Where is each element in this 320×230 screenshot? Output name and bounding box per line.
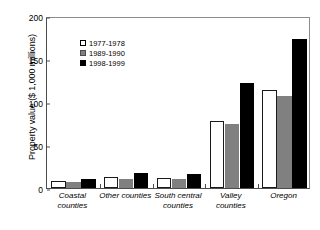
bar (240, 83, 255, 188)
y-tick-label: 100 (7, 99, 47, 109)
legend-swatch-icon (80, 40, 86, 46)
bar (81, 179, 96, 188)
legend-label: 1977-1978 (89, 39, 125, 48)
bar-group (262, 18, 307, 188)
legend-label: 1998-1999 (89, 59, 125, 68)
bar (104, 177, 119, 188)
x-category-label-line: Other counties (99, 191, 152, 201)
legend-label: 1989-1990 (89, 49, 125, 58)
x-category-label-line: Oregon (257, 191, 310, 201)
x-tick-mark (100, 184, 101, 188)
x-category-label: South centralcounties (152, 191, 205, 210)
x-category-label-line: South central (152, 191, 205, 201)
bar (51, 181, 66, 188)
x-tick-mark (153, 184, 154, 188)
legend-item: 1977-1978 (80, 39, 125, 48)
y-tick-label: 50 (7, 142, 47, 152)
bar (187, 174, 202, 188)
bar-chart-figure: Property value ($ 1,000 millions) 050100… (0, 0, 320, 230)
bar (172, 179, 187, 188)
y-tick-label: 150 (7, 56, 47, 66)
x-category-label-line: counties (152, 201, 205, 211)
x-category-label: Coastal counties (46, 191, 99, 210)
x-category-label: Oregon (257, 191, 310, 201)
bar-group (210, 18, 255, 188)
bar (157, 178, 172, 188)
y-tick-label: 200 (7, 13, 47, 23)
x-tick-mark (205, 184, 206, 188)
bar (134, 173, 149, 188)
x-category-label: Other counties (99, 191, 152, 201)
legend-item: 1998-1999 (80, 59, 125, 68)
y-tick-label: 0 (7, 185, 47, 195)
x-category-label: Valley counties (204, 191, 257, 210)
legend-swatch-icon (80, 50, 86, 56)
x-category-label-line: Coastal counties (46, 191, 99, 210)
bar-group (157, 18, 202, 188)
legend-swatch-icon (80, 60, 86, 66)
bar (210, 121, 225, 188)
y-axis-title: Property value ($ 1,000 millions) (27, 2, 37, 192)
bar (119, 179, 134, 188)
x-category-label-line: Valley counties (204, 191, 257, 210)
bar (66, 182, 81, 188)
bar (292, 39, 307, 188)
x-tick-mark (258, 184, 259, 188)
bar (277, 96, 292, 188)
bar (225, 124, 240, 188)
chart-legend: 1977-19781989-19901998-1999 (80, 39, 125, 69)
legend-item: 1989-1990 (80, 49, 125, 58)
bar (262, 90, 277, 188)
